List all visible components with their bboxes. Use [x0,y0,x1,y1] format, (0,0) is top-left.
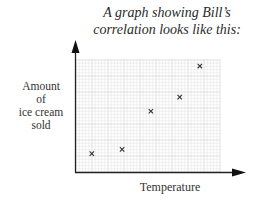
data-points [90,64,202,156]
scatter-plot [0,0,264,206]
y-axis-arrow-icon [72,40,80,53]
x-axis-label: Temperature [110,180,230,195]
graph-paper-grid [76,59,220,172]
x-marker-icon [198,64,202,68]
x-axis [75,169,246,177]
x-axis-arrow-icon [232,169,246,177]
